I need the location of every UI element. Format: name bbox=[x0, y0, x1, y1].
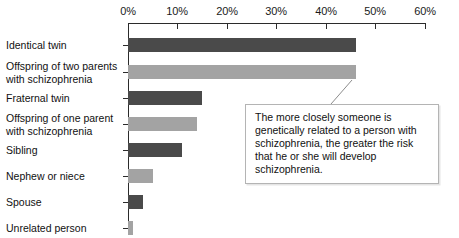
bar-spouse bbox=[128, 195, 143, 209]
category-label-identical-twin: Identical twin bbox=[6, 39, 124, 52]
category-label-fraternal-twin: Fraternal twin bbox=[6, 92, 124, 105]
bar-offspring-one-parent bbox=[128, 117, 197, 131]
schizophrenia-risk-bar-chart: 0% 10% 20% 30% 40% 50% 60% Identical twi… bbox=[0, 0, 459, 238]
category-label-line-2: with schizophrenia bbox=[6, 124, 92, 136]
category-label-sibling: Sibling bbox=[6, 144, 124, 157]
bar-offspring-two-parents bbox=[128, 65, 356, 79]
bar-sibling bbox=[128, 143, 182, 157]
bar-fraternal-twin bbox=[128, 91, 202, 105]
category-label-nephew-or-niece: Nephew or niece bbox=[6, 170, 124, 183]
x-tick-10 bbox=[177, 23, 178, 29]
x-tick-label-40: 40% bbox=[315, 5, 337, 17]
category-label-spouse: Spouse bbox=[6, 196, 124, 209]
category-label-offspring-one-parent: Offspring of one parent with schizophren… bbox=[6, 112, 124, 137]
bar-identical-twin bbox=[128, 38, 356, 52]
x-tick-label-50: 50% bbox=[364, 5, 386, 17]
x-tick-40 bbox=[326, 23, 327, 29]
x-tick-60 bbox=[425, 23, 426, 29]
bar-nephew-or-niece bbox=[128, 169, 153, 183]
bar-unrelated-person bbox=[128, 221, 133, 235]
callout-annotation: The more closely someone is genetically … bbox=[245, 104, 439, 184]
x-tick-50 bbox=[375, 23, 376, 29]
x-tick-20 bbox=[227, 23, 228, 29]
x-tick-label-10: 10% bbox=[166, 5, 188, 17]
x-tick-label-20: 20% bbox=[216, 5, 238, 17]
category-label-offspring-two-parents: Offspring of two parents with schizophre… bbox=[6, 60, 124, 85]
category-label-unrelated-person: Unrelated person bbox=[6, 222, 124, 235]
x-tick-30 bbox=[276, 23, 277, 29]
x-tick-label-30: 30% bbox=[265, 5, 287, 17]
category-label-line-2: with schizophrenia bbox=[6, 72, 92, 84]
category-label-line-1: Offspring of one parent bbox=[6, 112, 113, 124]
x-tick-label-60: 60% bbox=[414, 5, 436, 17]
x-tick-label-0: 0% bbox=[120, 5, 136, 17]
category-label-line-1: Offspring of two parents bbox=[6, 60, 117, 72]
